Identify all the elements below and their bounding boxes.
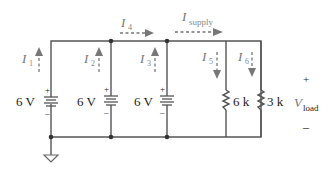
I5-label: I	[201, 49, 207, 64]
current-I3-arrow	[151, 47, 159, 72]
Isupply-label: I	[181, 9, 187, 24]
battery-V3-icon	[160, 96, 174, 105]
V3-minus: –	[159, 107, 165, 117]
Vload-minus: –	[302, 120, 310, 134]
V3-label: 6 V	[134, 94, 154, 109]
V1-minus: –	[44, 108, 50, 118]
I3-label: I	[139, 51, 145, 66]
I4-label: I	[120, 15, 126, 30]
resistor-R1-icon	[223, 90, 229, 110]
V2-label: 6 V	[77, 94, 97, 109]
R2-label: 3 k	[267, 94, 284, 109]
I3-sub: 3	[147, 59, 151, 68]
V2-plus: +	[104, 84, 109, 94]
ground-icon	[44, 155, 58, 162]
current-I4-arrow	[120, 29, 154, 37]
I2-label: I	[83, 51, 89, 66]
Vload-sub: load	[303, 103, 319, 113]
I2-sub: 2	[91, 59, 95, 68]
current-Isupply-arrow	[175, 28, 223, 36]
V1-label: 6 V	[16, 94, 36, 109]
V3-plus: +	[160, 84, 165, 94]
I6-sub: 6	[245, 57, 249, 66]
I1-label: I	[21, 51, 27, 66]
I5-sub: 5	[209, 57, 213, 66]
I4-sub: 4	[128, 23, 132, 32]
V2-minus: –	[103, 107, 109, 117]
R1-label: 6 k	[233, 94, 250, 109]
current-I6-arrow	[248, 52, 256, 77]
Vload-plus: +	[303, 73, 309, 85]
I1-sub: 1	[29, 59, 33, 68]
I6-label: I	[237, 49, 243, 64]
current-I1-arrow	[35, 47, 43, 72]
current-I2-arrow	[95, 47, 103, 72]
Isupply-sub: supply	[189, 17, 214, 27]
V1-plus: +	[45, 85, 50, 95]
current-I5-arrow	[213, 52, 221, 79]
battery-V2-icon	[104, 96, 118, 105]
circuit-diagram: + – 6 V + – 6 V + – 6 V 6 k 3 k I 1 I 2 …	[0, 0, 333, 172]
